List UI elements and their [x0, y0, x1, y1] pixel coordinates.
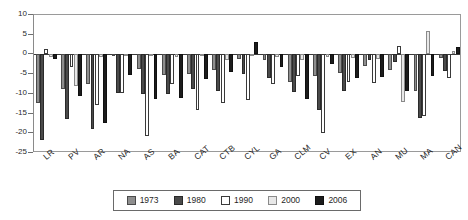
y-axis-tick — [28, 73, 33, 74]
bar — [196, 54, 200, 109]
bar-group — [185, 15, 210, 151]
legend-swatch-icon — [315, 196, 324, 205]
legend-item[interactable]: 1973 — [127, 196, 159, 205]
bar-group — [336, 15, 361, 151]
bar — [405, 54, 409, 91]
legend-item[interactable]: 2006 — [315, 196, 347, 205]
bar — [40, 54, 44, 140]
bar — [393, 54, 397, 62]
y-axis-tick-label: 0 — [0, 49, 27, 57]
bar — [321, 54, 325, 132]
bar-group — [437, 15, 462, 151]
y-axis-tick-label: -20 — [0, 128, 27, 136]
y-axis-tick — [28, 93, 33, 94]
bar-group — [135, 15, 160, 151]
bar-group — [84, 15, 109, 151]
bar-group — [34, 15, 59, 151]
bar — [305, 54, 309, 99]
y-axis-tick-label: 5 — [0, 30, 27, 38]
y-axis-tick — [28, 14, 33, 15]
legend-label: 2006 — [328, 196, 347, 205]
bar-chart: 1050-5-10-15-20-25 LRPVARNAASBACATCTBCYL… — [0, 0, 468, 220]
bar — [229, 54, 233, 72]
y-axis-tick-label: 10 — [0, 10, 27, 18]
legend-swatch-icon — [127, 196, 136, 205]
bar — [204, 54, 208, 79]
bars-layer — [34, 15, 460, 151]
bar — [380, 54, 384, 77]
y-axis-tick — [28, 34, 33, 35]
bar — [154, 54, 158, 99]
legend-label: 1973 — [140, 196, 159, 205]
bar — [355, 54, 359, 78]
y-axis-line — [33, 14, 34, 152]
bar — [128, 54, 132, 75]
bar — [330, 54, 334, 64]
bar — [397, 46, 401, 54]
bar — [246, 54, 250, 100]
bar — [456, 47, 460, 54]
bar-group — [210, 15, 235, 151]
legend-item[interactable]: 1990 — [221, 196, 253, 205]
y-axis-tick-label: -15 — [0, 109, 27, 117]
bar-group — [261, 15, 286, 151]
legend-swatch-icon — [268, 196, 277, 205]
bar-group — [361, 15, 386, 151]
bar — [78, 54, 82, 96]
bar-group — [386, 15, 411, 151]
plot-area — [33, 14, 461, 152]
chart-legend: 19731980199020002006 — [113, 190, 361, 211]
bar-group — [235, 15, 260, 151]
bar — [120, 54, 124, 92]
bar — [145, 54, 149, 135]
legend-item[interactable]: 1980 — [174, 196, 206, 205]
legend-label: 1980 — [187, 196, 206, 205]
y-axis-tick — [28, 113, 33, 114]
bar — [271, 54, 275, 84]
bar-group — [286, 15, 311, 151]
bar — [347, 54, 351, 81]
bar — [250, 54, 254, 56]
bar — [254, 42, 258, 54]
bar-group — [412, 15, 437, 151]
bar — [422, 54, 426, 116]
bar — [95, 54, 99, 104]
bar-group — [311, 15, 336, 151]
bar — [280, 54, 284, 67]
x-axis-labels: LRPVARNAASBACATCTBCYLGACLMCVEXANMUMACAN — [0, 152, 468, 186]
bar — [53, 54, 57, 59]
legend-label: 2000 — [281, 196, 300, 205]
bar-group — [160, 15, 185, 151]
y-axis-tick — [28, 53, 33, 54]
bar — [103, 54, 107, 122]
legend-label: 1990 — [234, 196, 253, 205]
y-axis-tick-label: -5 — [0, 69, 27, 77]
y-axis-tick — [28, 132, 33, 133]
y-axis-tick-label: -10 — [0, 89, 27, 97]
bar — [221, 54, 225, 103]
bar-group — [59, 15, 84, 151]
legend-item[interactable]: 2000 — [268, 196, 300, 205]
legend-swatch-icon — [174, 196, 183, 205]
legend-swatch-icon — [221, 196, 230, 205]
bar — [179, 54, 183, 97]
bar — [170, 54, 174, 84]
bar — [426, 31, 430, 54]
bar-group — [110, 15, 135, 151]
bar — [447, 54, 451, 77]
bar — [431, 54, 435, 75]
